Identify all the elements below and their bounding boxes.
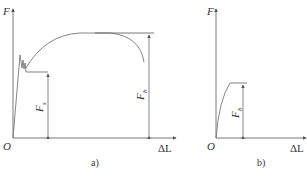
x-axis-label: ΔL [290, 142, 304, 154]
fs-label: F s [33, 102, 48, 113]
svg-text:b: b [236, 107, 244, 111]
caption: b) [257, 157, 265, 169]
svg-text:F: F [134, 93, 146, 101]
stress-strain-curve [13, 33, 144, 138]
svg-text:s: s [40, 102, 48, 105]
panel-b: F O ΔL b) F b [206, 5, 306, 169]
x-axis-label: ΔL [158, 142, 172, 154]
origin-label: O [3, 140, 11, 152]
fb-label: F b [229, 107, 244, 119]
y-axis-label: F [206, 5, 214, 17]
fb-label: F b [134, 89, 149, 101]
caption: a) [91, 157, 99, 169]
panel-a: F O ΔL a) F s F b [2, 5, 176, 169]
diagram-canvas: F O ΔL a) F s F b F O ΔL b) F b [0, 0, 307, 182]
origin-label: O [207, 140, 215, 152]
svg-text:b: b [141, 89, 149, 93]
y-axis-label: F [2, 5, 10, 17]
svg-text:F: F [33, 105, 45, 113]
svg-text:F: F [229, 111, 241, 119]
